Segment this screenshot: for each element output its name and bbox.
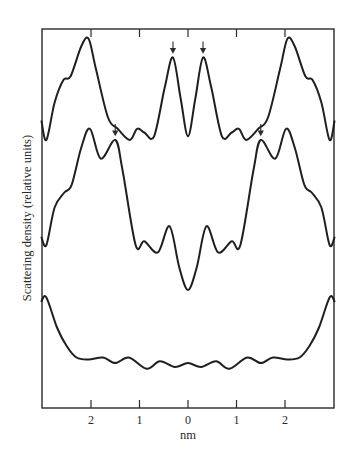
x-tick-label: 0 xyxy=(185,413,191,427)
top-profile-curve xyxy=(42,37,335,140)
peak-arrow xyxy=(171,42,175,53)
x-tick-label: 1 xyxy=(137,413,143,427)
x-axis-label: nm xyxy=(180,428,196,442)
peak-arrow xyxy=(201,42,205,53)
y-axis-label: Scattering density (relative units) xyxy=(20,135,34,301)
bottom-profile-curve xyxy=(42,296,335,369)
peak-arrows xyxy=(113,42,263,136)
curves xyxy=(42,37,335,368)
middle-profile-curve xyxy=(42,129,335,290)
density-profile-chart: 21012 nm Scattering density (relative un… xyxy=(0,0,352,457)
x-tick-labels: 21012 xyxy=(88,413,288,427)
x-tick-label: 2 xyxy=(282,413,288,427)
plot-frame xyxy=(42,29,334,408)
bottom-ticks xyxy=(91,400,285,408)
top-ticks xyxy=(91,29,285,37)
x-tick-label: 2 xyxy=(88,413,94,427)
x-tick-label: 1 xyxy=(234,413,240,427)
